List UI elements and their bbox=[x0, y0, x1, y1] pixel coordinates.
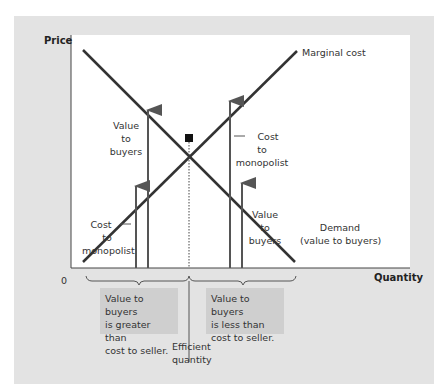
demand-label-line1: Demand bbox=[300, 221, 380, 234]
text: to bbox=[244, 221, 286, 234]
text: monopolist bbox=[82, 244, 132, 257]
y-axis-label: Price bbox=[44, 35, 72, 46]
text: Efficient bbox=[172, 340, 212, 353]
text: to bbox=[108, 132, 144, 145]
origin-label: 0 bbox=[61, 274, 67, 287]
text: cost to seller. bbox=[105, 344, 173, 357]
text: Value bbox=[108, 119, 144, 132]
text: Cost bbox=[82, 218, 120, 231]
left-bracket bbox=[86, 276, 189, 285]
x-axis-label: Quantity bbox=[374, 272, 423, 283]
right-bracket bbox=[189, 276, 296, 285]
text: is less than bbox=[211, 318, 279, 331]
text: is greater than bbox=[105, 318, 173, 344]
text: Value bbox=[244, 208, 286, 221]
text: to bbox=[82, 231, 132, 244]
right-value-label: Value to buyers bbox=[244, 208, 286, 247]
text: Cost bbox=[244, 130, 292, 143]
text: Value to buyers bbox=[105, 292, 173, 318]
marginal-cost-label: Marginal cost bbox=[302, 46, 366, 59]
text: quantity bbox=[172, 353, 212, 366]
equilibrium-point bbox=[185, 134, 193, 142]
demand-label-line2: (value to buyers) bbox=[300, 234, 380, 247]
left-value-label: Value to buyers bbox=[108, 119, 144, 158]
left-cost-label: Cost to monopolist bbox=[82, 218, 132, 257]
left-region-note: Value to buyers is greater than cost to … bbox=[100, 288, 178, 334]
right-region-note: Value to buyers is less than cost to sel… bbox=[206, 288, 284, 334]
text: Value to buyers bbox=[211, 292, 279, 318]
text: buyers bbox=[108, 145, 144, 158]
text: monopolist bbox=[232, 156, 292, 169]
text: cost to seller. bbox=[211, 331, 279, 344]
right-cost-label: Cost to monopolist bbox=[232, 130, 292, 169]
text: buyers bbox=[244, 234, 286, 247]
demand-label: Demand (value to buyers) bbox=[300, 221, 380, 247]
text: to bbox=[232, 143, 292, 156]
efficient-quantity-label: Efficient quantity bbox=[172, 340, 212, 366]
